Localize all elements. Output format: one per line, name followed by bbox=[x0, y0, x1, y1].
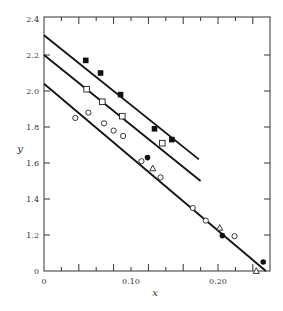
open-square-marker bbox=[99, 99, 105, 105]
open-circle-marker bbox=[158, 175, 163, 180]
tick-labels: 00.100.2001.21.41.61.82.02.22.4 bbox=[26, 15, 227, 286]
open-square-marker bbox=[84, 86, 90, 92]
filled-square-marker bbox=[98, 70, 104, 76]
filled-square-marker bbox=[118, 92, 124, 98]
data-points bbox=[73, 58, 266, 274]
open-circle-marker bbox=[121, 133, 126, 138]
open-circle-marker bbox=[86, 110, 91, 115]
open-circle-marker bbox=[190, 205, 195, 210]
open-circle-marker bbox=[232, 234, 237, 239]
y-tick-label: 1.4 bbox=[26, 195, 39, 204]
filled-square-marker bbox=[152, 126, 158, 132]
filled-circle-marker bbox=[145, 155, 151, 161]
open-square-marker bbox=[120, 113, 126, 119]
x-axis-label: x bbox=[152, 287, 158, 298]
y-tick-label: 1.8 bbox=[26, 123, 39, 132]
open-circle-marker bbox=[73, 115, 78, 120]
y-tick-label: 2.0 bbox=[26, 87, 39, 96]
filled-circle-marker bbox=[220, 233, 226, 239]
y-tick-label: 1.2 bbox=[26, 231, 39, 240]
filled-square-marker bbox=[169, 137, 175, 143]
y-tick-label: 1.6 bbox=[26, 159, 39, 168]
filled-square-marker bbox=[83, 58, 89, 64]
y-tick-label: 2.2 bbox=[26, 51, 39, 60]
x-tick-label: 0.10 bbox=[122, 277, 140, 286]
chart: 00.100.2001.21.41.61.82.02.22.4 x y bbox=[0, 0, 283, 311]
y-tick-label: 0 bbox=[34, 267, 39, 276]
y-tick-label: 2.4 bbox=[26, 15, 39, 24]
open-circle-marker bbox=[101, 121, 106, 126]
x-tick-label: 0.20 bbox=[209, 277, 227, 286]
plot-frame bbox=[44, 17, 270, 271]
filled-circle-marker bbox=[260, 259, 266, 265]
lower-line bbox=[44, 84, 266, 271]
open-square-marker bbox=[160, 140, 166, 146]
x-tick-label: 0 bbox=[41, 277, 46, 286]
y-axis-label: y bbox=[16, 143, 23, 154]
open-circle-marker bbox=[203, 218, 208, 223]
open-triangle-marker bbox=[217, 225, 223, 231]
open-triangle-marker bbox=[150, 165, 156, 171]
open-circle-marker bbox=[139, 159, 144, 164]
ticks bbox=[44, 17, 270, 271]
open-circle-marker bbox=[111, 128, 116, 133]
